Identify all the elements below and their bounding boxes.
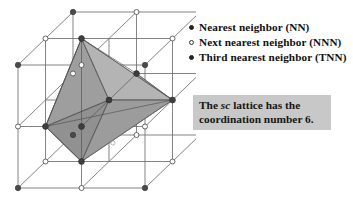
hollow-dot-icon — [186, 35, 199, 50]
legend-item-nearest-neighbor: Nearest neighbor (NN) — [186, 20, 351, 35]
caption-suffix: lattice has the — [230, 99, 300, 111]
lattice-figure: Nearest neighbor (NN) Next nearest neigh… — [0, 0, 353, 202]
caption-emphasis: sc — [221, 99, 231, 111]
caption-prefix: The — [199, 99, 221, 111]
legend-item-third-nearest-neighbor: Third nearest neighbor (TNN) — [186, 50, 351, 65]
interior-marker-icon — [111, 141, 115, 145]
simple-cubic-lattice-diagram — [0, 0, 196, 202]
caption-line-2: coordination number 6. — [199, 112, 326, 126]
filled-dot-icon — [186, 20, 199, 35]
reference-atom-node — [106, 97, 112, 103]
legend-item-next-nearest-neighbor: Next nearest neighbor (NNN) — [186, 35, 351, 50]
legend-item-label: Third nearest neighbor (TNN) — [199, 50, 347, 65]
caption-box: The sc lattice has the coordination numb… — [193, 95, 331, 130]
filled-dot-icon — [186, 50, 199, 65]
caption-line-1: The sc lattice has the — [199, 98, 326, 112]
legend-item-label: Nearest neighbor (NN) — [199, 20, 309, 35]
legend-item-label: Next nearest neighbor (NNN) — [199, 35, 341, 50]
legend: Nearest neighbor (NN) Next nearest neigh… — [186, 20, 351, 65]
